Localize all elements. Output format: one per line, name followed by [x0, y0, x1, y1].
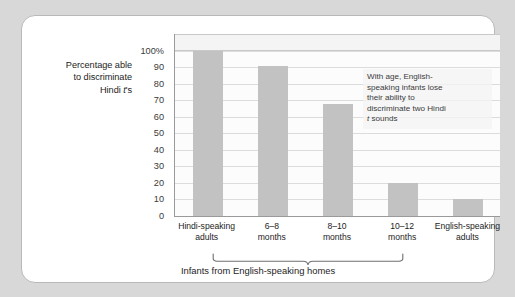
y-axis-tick-label: 80	[154, 79, 164, 89]
y-axis-tick-label: 70	[154, 95, 164, 105]
plot-header-band	[175, 34, 500, 51]
annotation-line: their ability to	[367, 93, 488, 104]
x-axis-tick-labels: Hindi-speaking adults6–8 months8–10 mont…	[174, 221, 500, 251]
figure-root: Percentage ableto discriminateHindi t's …	[0, 0, 515, 297]
x-axis-tick-label: English-speaking adults	[424, 221, 510, 242]
bar	[453, 199, 483, 216]
annotation-line: With age, English-	[367, 72, 488, 83]
annotation-line: t sounds	[367, 114, 488, 125]
annotation-line: discriminate two Hindi	[367, 104, 488, 115]
y-axis-tick-label: 90	[154, 62, 164, 72]
y-axis-tick-label: 30	[154, 161, 164, 171]
y-axis-tick-label: 10	[154, 194, 164, 204]
bar	[258, 66, 288, 217]
x-axis-caption: Infants from English-speaking homes	[22, 265, 494, 276]
bar	[193, 51, 223, 216]
y-axis-tick-label: 20	[154, 178, 164, 188]
y-axis-tick-label: 40	[154, 145, 164, 155]
annotation-callout: With age, English-speaking infants loset…	[363, 69, 492, 129]
y-axis-tick-labels: 100%9080706050403020100	[118, 34, 170, 217]
bar	[388, 183, 418, 216]
bar	[323, 104, 353, 216]
y-axis-tick-label: 60	[154, 112, 164, 122]
y-axis-tick-label: 0	[159, 211, 164, 221]
y-axis-tick-label: 100%	[141, 46, 165, 56]
figure-card: Percentage ableto discriminateHindi t's …	[21, 15, 495, 283]
annotation-line: speaking infants lose	[367, 83, 488, 94]
y-axis-tick-label: 50	[154, 128, 164, 138]
